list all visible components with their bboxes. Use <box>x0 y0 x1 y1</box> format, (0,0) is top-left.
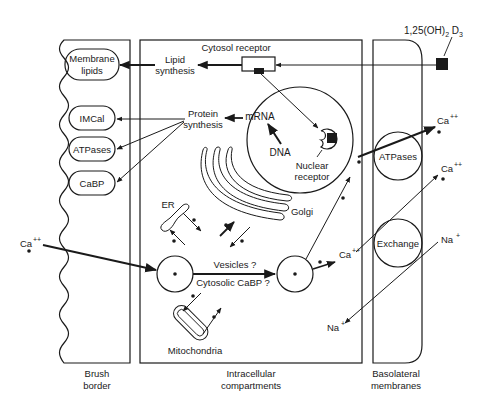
cytosol-receptor-label: Cytosol receptor <box>201 42 270 53</box>
brush-border-outline <box>60 40 131 363</box>
imcal-label: IMCal <box>80 113 105 124</box>
ca-serosal-charge-top: ++ <box>450 113 458 120</box>
nuclear-receptor-label-2: receptor <box>295 171 330 182</box>
basolateral-label: Basolateral <box>372 368 420 379</box>
cytosol-receptor-bound-hormone <box>254 68 264 74</box>
membrane-lipids-label: Membrane <box>69 53 114 64</box>
intracellular-label-2: compartments <box>221 380 281 391</box>
nuclear-receptor-pointer <box>317 150 322 157</box>
mitochondria-out-arrow <box>203 308 221 334</box>
ca-dot <box>437 130 441 134</box>
ca-dot <box>191 294 195 298</box>
intracellular-compartment: Intracellular compartments Cytosol recep… <box>117 40 362 391</box>
ca-serosal-charge-mid: ++ <box>454 161 462 168</box>
basolateral-label-2: membranes <box>371 380 421 391</box>
dna-to-mrna-arrow <box>268 124 281 144</box>
hormone-pointer <box>444 37 452 56</box>
na-serosal-label: Na <box>441 234 454 245</box>
basolateral-outline <box>373 40 422 363</box>
ca-dot <box>173 272 177 276</box>
hormone-molecule <box>436 58 448 70</box>
na-entry-arrow <box>345 242 438 323</box>
na-serosal-charge: + <box>456 232 460 239</box>
er-in-arrow <box>170 230 185 245</box>
ca-dot <box>240 239 244 243</box>
atpases-label: ATPases <box>73 144 111 155</box>
ca-dot <box>27 249 31 253</box>
membrane-lipids-label-2: lipids <box>81 65 103 76</box>
ca-serosal-label-mid: Ca <box>441 163 454 174</box>
exit-to-atpase-arrow <box>306 177 350 259</box>
brush-border-label-2: border <box>83 380 110 391</box>
vesicles-label: Vesicles ? <box>214 259 257 270</box>
exchange-label: Exchange <box>377 238 419 249</box>
protein-to-cabp-arrow <box>117 122 184 182</box>
lipid-synthesis-label-2: synthesis <box>155 65 195 76</box>
nuclear-receptor-bound-hormone <box>327 133 337 143</box>
mrna-label: mRNA <box>245 111 275 122</box>
ca-dot <box>192 218 196 222</box>
mitochondrion <box>170 302 211 343</box>
mitochondria-label: Mitochondria <box>168 345 223 356</box>
ca-serosal-label-top: Ca <box>437 115 450 126</box>
ca-dot <box>357 160 361 164</box>
exit-to-exchange-arrow <box>313 262 335 269</box>
basolateral-compartment: ATPases Exchange Basolateral membranes <box>371 40 422 391</box>
na-cell-label: Na <box>327 322 340 333</box>
ca-dot <box>224 223 228 227</box>
brush-border-compartment: Membrane lipids IMCal ATPases CaBP Brush… <box>60 40 131 391</box>
brush-border-label: Brush <box>85 368 110 379</box>
ca-dot <box>441 177 445 181</box>
protein-synthesis-label-2: synthesis <box>183 119 223 130</box>
golgi-label: Golgi <box>291 206 313 217</box>
er-out-arrow <box>183 213 201 231</box>
ca-dot <box>293 272 297 276</box>
ca-cell-label: Ca <box>339 249 352 260</box>
ca-cell-charge: ++ <box>352 247 360 254</box>
na-cell-charge: + <box>341 320 345 327</box>
dna-label: DNA <box>269 147 290 158</box>
ca-lumen-charge: ++ <box>33 236 41 243</box>
er-label: ER <box>161 199 174 210</box>
hormone-vitamin-d: 1,25(OH)2 D3 <box>276 25 463 70</box>
ca-dot <box>318 260 322 264</box>
calcium-transport-diagram: Membrane lipids IMCal ATPases CaBP Brush… <box>0 0 481 405</box>
cytosolic-cabp-label: Cytosolic CaBP ? <box>196 277 270 288</box>
nuclear-receptor-label: Nuclear <box>296 160 329 171</box>
cabp-label: CaBP <box>80 178 105 189</box>
lipid-synthesis-label: Lipid <box>165 54 185 65</box>
golgi-in-arrow <box>230 227 250 247</box>
hormone-label: 1,25(OH)2 D3 <box>404 25 463 38</box>
ca-entry-arrow <box>43 245 156 270</box>
protein-to-atpases-arrow <box>117 121 184 149</box>
ca-dot <box>341 196 345 200</box>
intracellular-label: Intracellular <box>226 368 275 379</box>
ca-dot <box>172 239 176 243</box>
basolateral-atpases-label: ATPases <box>379 151 417 162</box>
protein-synthesis-label: Protein <box>188 108 218 119</box>
ca-dot <box>212 315 216 319</box>
ca-lumen-label: Ca <box>20 238 33 249</box>
